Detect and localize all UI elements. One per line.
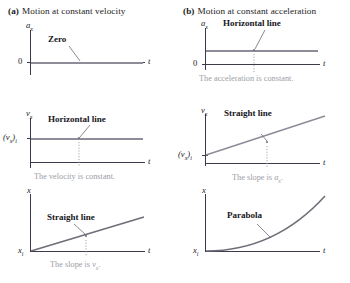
- panel-a-heading: (a)Motion at constant velocity: [8, 6, 126, 16]
- panel-a-graph-acceleration: ax t 0 Zero: [0, 20, 175, 113]
- annotation-leader-line: [175, 20, 350, 113]
- caption-slope: The slope is vx.: [50, 260, 101, 271]
- annotation-leader-line: [0, 20, 175, 113]
- panel-b: (b)Motion at constant acceleration ax t …: [175, 0, 350, 283]
- physics-motion-figure: (a)Motion at constant velocity ax t 0 Ze…: [0, 0, 350, 283]
- panel-a: (a)Motion at constant velocity ax t 0 Ze…: [0, 0, 175, 283]
- panel-b-graph-position: x t xi Parabola: [175, 190, 350, 283]
- panel-a-graph-position: x t xi Straight line The slope is vx.: [0, 190, 175, 283]
- data-curve-parabola: [175, 190, 350, 283]
- panel-b-heading: (b)Motion at constant acceleration: [183, 6, 316, 16]
- panel-b-heading-text: Motion at constant acceleration: [198, 6, 317, 16]
- panel-a-tag: (a): [8, 6, 19, 16]
- caption-slope: The slope is ax.: [232, 173, 283, 184]
- annotation-straight-line: Straight line: [224, 108, 272, 118]
- panel-b-graph-acceleration: ax t 0 Horizontal line The acceleration …: [175, 20, 350, 113]
- annotation-straight-line: Straight line: [47, 212, 95, 222]
- caption-velocity: The velocity is constant.: [34, 172, 115, 181]
- annotation-parabola: Parabola: [227, 210, 262, 220]
- caption-acceleration: The acceleration is constant.: [199, 74, 293, 83]
- panel-a-heading-text: Motion at constant velocity: [22, 6, 126, 16]
- panel-b-tag: (b): [183, 6, 195, 16]
